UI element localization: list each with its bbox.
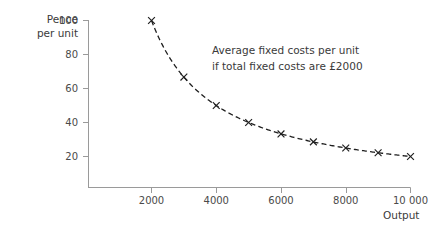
y-tick-label: 60 bbox=[52, 84, 78, 94]
y-tick-label: 40 bbox=[52, 118, 78, 128]
x-tick-label: 4000 bbox=[188, 196, 244, 206]
x-tick-label: 6000 bbox=[253, 196, 309, 206]
data-point-markers bbox=[148, 17, 414, 160]
x-axis-ticks bbox=[152, 188, 411, 194]
y-tick-label: 80 bbox=[52, 50, 78, 60]
annotation-line1: Average fixed costs per unit bbox=[212, 45, 359, 56]
y-tick-label: 100 bbox=[52, 16, 78, 26]
y-tick-label: 20 bbox=[52, 152, 78, 162]
y-axis-ticks bbox=[83, 21, 89, 157]
x-tick-label: 8000 bbox=[318, 196, 374, 206]
afc-curve-line bbox=[152, 21, 411, 157]
y-axis-label-line2: per unit bbox=[18, 28, 78, 39]
x-tick-label: 10 000 bbox=[383, 196, 439, 206]
annotation-line2: if total fixed costs are £2000 bbox=[212, 61, 363, 72]
x-axis-label: Output bbox=[383, 210, 419, 221]
chart-figure: Pence per unit Output Average fixed cost… bbox=[0, 0, 439, 234]
x-tick-label: 2000 bbox=[124, 196, 180, 206]
